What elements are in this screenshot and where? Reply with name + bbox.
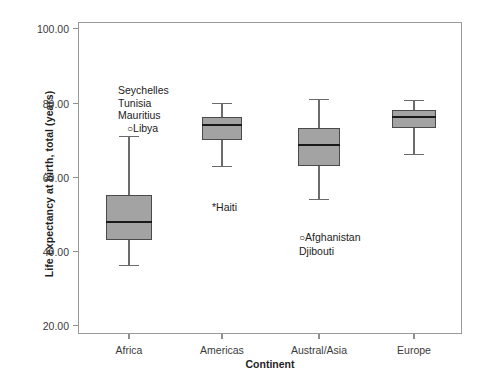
y-axis-tick-label: 100.00 (37, 22, 78, 36)
outlier-label-haiti-row: *Haiti (212, 201, 237, 214)
x-axis-title: Continent (78, 358, 462, 370)
outlier-label-tunisia: Tunisia (118, 97, 169, 110)
y-axis-tick-20: 20.00 (0, 319, 78, 333)
median-line (202, 124, 242, 126)
boxplot-chart: Life expectancy at birth, total (years) … (0, 0, 477, 380)
whisker-cap-lower (404, 154, 424, 155)
y-axis-tick-40: 40.00 (0, 245, 78, 259)
box-iqr (298, 128, 340, 166)
whisker-lower (413, 128, 414, 155)
median-line (392, 116, 436, 118)
whisker-upper (221, 103, 222, 117)
x-axis-tickmark (221, 334, 222, 339)
whisker-lower (221, 140, 222, 167)
outlier-labels-austral-asia: ○Afghanistan Djibouti (299, 231, 361, 257)
whisker-cap-lower (309, 199, 329, 200)
whisker-upper (413, 100, 414, 110)
outlier-labels-americas: *Haiti (212, 201, 237, 214)
whisker-cap-lower (119, 265, 139, 266)
x-axis-tick-label: Austral/Asia (291, 344, 347, 356)
boxplot-africa (106, 136, 152, 266)
box-iqr (392, 110, 436, 128)
whisker-upper (318, 99, 319, 128)
outlier-label-seychelles: Seychelles (118, 84, 169, 97)
x-axis-tickmark (128, 334, 129, 339)
x-axis-tick-austral-asia: Austral/Asia (264, 334, 374, 356)
median-line (298, 144, 340, 146)
outlier-label-djibouti: Djibouti (299, 245, 361, 258)
x-axis-tickmark (318, 334, 319, 339)
y-axis-tick-label: 40.00 (43, 245, 78, 259)
median-line (106, 221, 152, 223)
y-axis-tick-80: 80.00 (0, 97, 78, 111)
outlier-labels-africa: Seychelles Tunisia Mauritius ○Libya (118, 84, 169, 135)
x-axis-tickmark (413, 334, 414, 339)
y-axis-tick-label: 60.00 (43, 171, 78, 185)
outlier-label-mauritius: Mauritius (118, 109, 169, 122)
y-axis-tick-100: 100.00 (0, 22, 78, 36)
x-axis-tick-label: Americas (200, 344, 244, 356)
outlier-label-haiti: Haiti (216, 201, 237, 213)
x-axis-tick-label: Europe (397, 344, 431, 356)
whisker-lower (318, 166, 319, 200)
box-iqr (106, 195, 152, 240)
whisker-cap-lower (212, 166, 232, 167)
x-axis-tick-label: Africa (116, 344, 143, 356)
y-axis-tick-60: 60.00 (0, 171, 78, 185)
whisker-upper (128, 136, 129, 195)
outlier-label-libya-row: ○Libya (118, 122, 169, 136)
box-iqr (202, 117, 242, 140)
boxplot-austral-asia (298, 99, 340, 200)
outlier-label-afghanistan: Afghanistan (305, 231, 360, 243)
boxplot-europe (392, 100, 436, 155)
boxplot-americas (202, 103, 242, 167)
y-axis-tick-label: 20.00 (43, 319, 78, 333)
x-axis-tick-americas: Americas (167, 334, 277, 356)
y-axis-tick-label: 80.00 (43, 97, 78, 111)
whisker-lower (128, 240, 129, 266)
x-axis-tick-europe: Europe (359, 334, 469, 356)
outlier-label-afghanistan-row: ○Afghanistan (299, 231, 361, 245)
outlier-label-libya: Libya (133, 122, 158, 134)
